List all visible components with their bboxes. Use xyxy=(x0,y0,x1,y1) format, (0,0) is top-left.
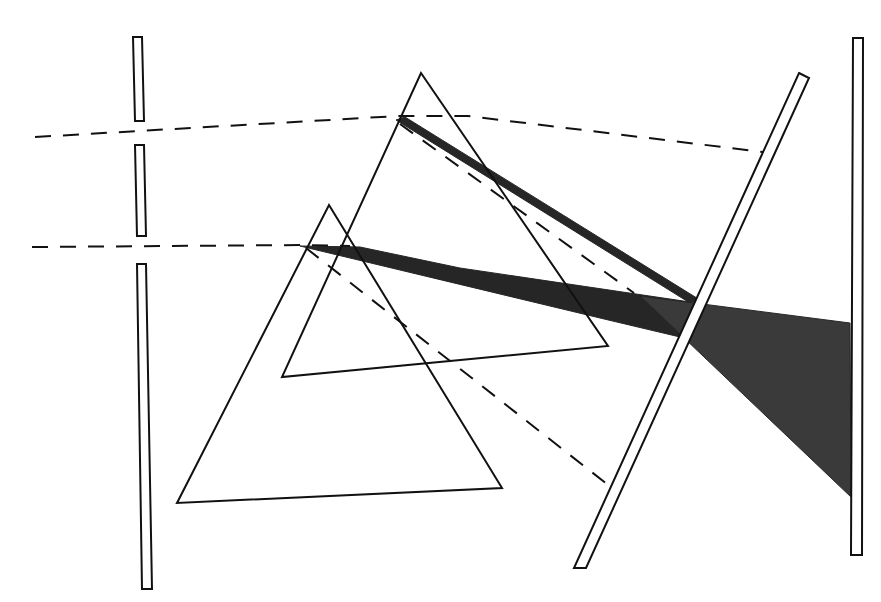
optics-diagram xyxy=(0,0,881,602)
prism-dispersion-figure xyxy=(0,0,881,602)
vertical-screen xyxy=(851,38,863,555)
background xyxy=(0,0,881,602)
slit-plate-top xyxy=(133,37,144,121)
slit-plate-middle xyxy=(135,145,146,236)
